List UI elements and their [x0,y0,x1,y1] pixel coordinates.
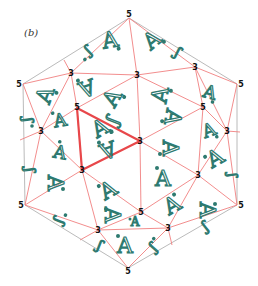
vertex-label: 5 [238,80,244,89]
vertex-label: 3 [137,137,143,146]
vertex-label: 5 [238,201,244,210]
vertex-label: 3 [224,127,230,136]
vertex-label: 3 [195,171,201,180]
svg-text:A: A [130,215,140,229]
vertex-label: 5 [125,267,131,276]
svg-text:A: A [198,118,219,143]
svg-text:A: A [146,84,174,106]
vertex-label: 5 [16,80,22,89]
vertex-label: 5 [74,103,80,112]
svg-text:A: A [74,73,99,103]
svg-text:A: A [94,175,122,206]
vertex-label: 5 [200,103,206,112]
svg-text:ʃ: ʃ [145,239,161,256]
svg-text:ʃ: ʃ [20,116,36,123]
vertex-label: 3 [95,226,101,235]
vertex-label: 5 [126,10,132,19]
vertex-label: 3 [38,127,44,136]
svg-text:ʃ: ʃ [80,42,95,59]
vertex-label: 5 [18,201,24,210]
svg-text:A: A [158,190,186,221]
vertex-label: 3 [165,224,171,233]
vertex-label: 3 [134,71,140,80]
panel-label: (b) [24,27,38,38]
vertex-label: 3 [192,63,198,72]
vertex-label: 3 [79,166,85,175]
vertex-label: 5 [138,208,144,217]
vertex-label: 3 [68,69,74,78]
icosahedral-tiling-diagram: (b) [0,0,258,286]
svg-text:A: A [100,206,125,224]
svg-text:A: A [137,25,167,56]
svg-text:A: A [159,106,187,128]
svg-text:A: A [51,140,69,163]
